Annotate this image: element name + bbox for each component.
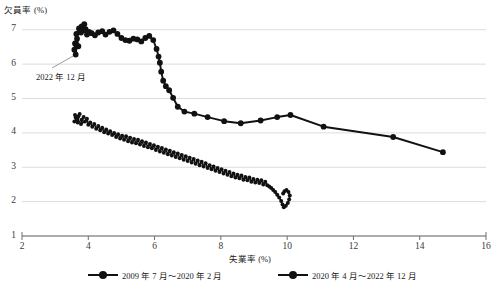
y-tick-label: 2 bbox=[0, 195, 16, 205]
legend-marker-icon bbox=[278, 271, 308, 280]
plot-area bbox=[0, 0, 500, 296]
chart-legend: 2009 年 7 月～2020 年 2 月 2020 年 4 月～2022 年 … bbox=[0, 268, 500, 288]
legend-marker-icon bbox=[88, 271, 118, 280]
legend-label-series-1: 2009 年 7 月～2020 年 2 月 bbox=[122, 269, 222, 281]
x-tick-label: 6 bbox=[143, 241, 167, 251]
y-tick-label: 6 bbox=[0, 58, 16, 68]
x-tick-label: 16 bbox=[474, 241, 498, 251]
legend-item-series-1[interactable]: 2009 年 7 月～2020 年 2 月 bbox=[88, 269, 222, 281]
annotation-2022-12: 2022 年 12 月 bbox=[36, 70, 86, 82]
legend-item-series-2[interactable]: 2020 年 4 月～2022 年 12 月 bbox=[278, 269, 417, 281]
y-tick-label: 4 bbox=[0, 126, 16, 136]
y-tick-label: 7 bbox=[0, 23, 16, 33]
x-tick-label: 14 bbox=[408, 241, 432, 251]
x-tick-label: 10 bbox=[275, 241, 299, 251]
x-tick-label: 12 bbox=[341, 241, 365, 251]
x-tick-label: 4 bbox=[76, 241, 100, 251]
x-tick-label: 8 bbox=[209, 241, 233, 251]
y-tick-label: 3 bbox=[0, 161, 16, 171]
y-tick-label: 1 bbox=[0, 230, 16, 240]
legend-label-series-2: 2020 年 4 月～2022 年 12 月 bbox=[312, 269, 417, 281]
y-tick-label: 5 bbox=[0, 92, 16, 102]
beveridge-curve-figure: 欠員率 (%) 失業率 (%) 1234567 246810121416 202… bbox=[0, 0, 500, 296]
x-tick-label: 2 bbox=[10, 241, 34, 251]
